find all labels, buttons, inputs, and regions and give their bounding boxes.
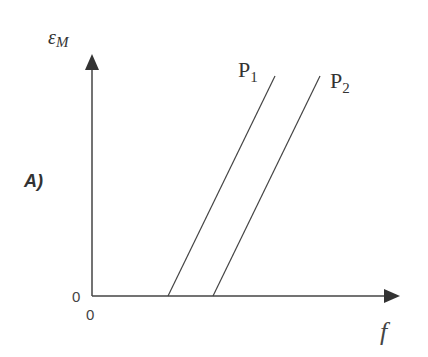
line-p1 [168,76,275,296]
line-p2 [213,76,320,296]
panel-label: A) [23,171,43,191]
y-axis-label: εM [48,26,70,50]
diagram-canvas: εM P1 P2 A) 0 0 f [0,0,428,357]
origin-x-tick: 0 [86,306,94,323]
x-axis-arrow-icon [384,289,400,303]
label-p1: P1 [238,57,258,85]
origin-y-tick: 0 [72,288,80,305]
y-axis-arrow-icon [85,54,99,70]
label-p2: P2 [330,68,350,96]
x-axis-label: f [380,317,391,346]
